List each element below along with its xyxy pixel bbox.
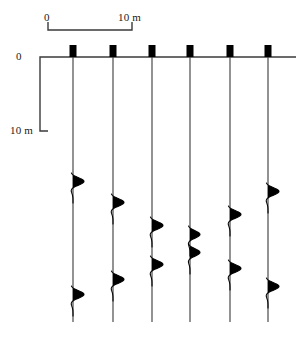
seismic-section-svg bbox=[0, 0, 308, 339]
trace-6 bbox=[266, 50, 279, 322]
trace-2-event-a bbox=[111, 194, 124, 224]
trace-6-event-a bbox=[266, 183, 279, 213]
trace-4 bbox=[188, 50, 200, 322]
trace-4-event-b bbox=[188, 244, 200, 274]
trace-3 bbox=[150, 50, 163, 322]
trace-3-event-b bbox=[150, 256, 163, 286]
wellhead-marker-6 bbox=[265, 45, 272, 57]
wellhead-marker-2 bbox=[110, 45, 117, 57]
vertical-scale-bar bbox=[40, 57, 48, 131]
wellhead-marker-3 bbox=[149, 45, 156, 57]
vertical-scale-bottom-label: 10 m bbox=[10, 124, 33, 136]
trace-2 bbox=[111, 50, 124, 322]
trace-1-event-a bbox=[71, 173, 84, 203]
horizontal-scale-bar bbox=[48, 22, 132, 30]
horizontal-scale-right-label: 10 m bbox=[118, 11, 141, 23]
wellhead-marker-4 bbox=[187, 45, 194, 57]
trace-3-event-a bbox=[150, 217, 163, 247]
trace-group bbox=[71, 50, 279, 322]
trace-5 bbox=[228, 50, 241, 322]
trace-5-event-b bbox=[228, 260, 241, 290]
trace-2-event-b bbox=[111, 271, 124, 301]
wellhead-marker-1 bbox=[70, 45, 77, 57]
vertical-scale-top-label: 0 bbox=[16, 50, 22, 62]
vertical-scale-bracket bbox=[40, 57, 48, 131]
trace-1 bbox=[71, 50, 84, 322]
wellhead-marker-group bbox=[70, 45, 272, 57]
trace-1-event-b bbox=[71, 286, 84, 316]
wellhead-marker-5 bbox=[227, 45, 234, 57]
figure-canvas: 0 10 m 0 10 m bbox=[0, 0, 308, 339]
horizontal-scale-bracket bbox=[48, 22, 132, 30]
trace-6-event-b bbox=[266, 278, 279, 308]
horizontal-scale-left-label: 0 bbox=[44, 11, 50, 23]
trace-5-event-a bbox=[228, 206, 241, 236]
